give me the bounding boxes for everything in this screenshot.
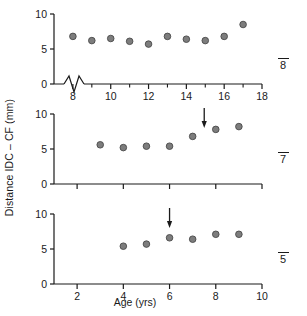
data-point (212, 126, 219, 133)
data-point (202, 37, 209, 44)
panel-tag-middle: 7 (272, 152, 294, 165)
figure-container: Distance IDC – CF (mm) 05108101214161805… (0, 0, 307, 316)
y-tick-label: 0 (41, 178, 47, 190)
x-tick-label: 14 (181, 90, 193, 102)
x-tick-label: 10 (105, 90, 117, 102)
panel-tag-label-middle: 7 (272, 153, 294, 165)
data-point (164, 33, 171, 40)
data-point (166, 143, 173, 150)
data-point (236, 231, 243, 238)
arrow-head (167, 221, 172, 228)
y-tick-label: 5 (41, 243, 47, 255)
x-tick-label: 16 (218, 90, 230, 102)
panel-tag-label-top: 8 (272, 59, 294, 71)
y-tick-label: 10 (35, 8, 47, 20)
data-point (212, 231, 219, 238)
x-axis-label: Age (yrs) (0, 296, 270, 308)
y-tick-label: 5 (41, 43, 47, 55)
data-point (236, 123, 243, 130)
annotation-arrow (167, 208, 172, 228)
data-point (143, 143, 150, 150)
data-point (240, 21, 247, 28)
x-tick-label: 12 (143, 90, 155, 102)
y-tick-label: 5 (41, 143, 47, 155)
y-tick-label: 0 (41, 78, 47, 90)
arrow-head (202, 121, 207, 128)
data-point (120, 243, 127, 250)
data-point (89, 37, 96, 44)
panel-tag-top: 8 (272, 58, 294, 71)
y-tick-label: 10 (35, 208, 47, 220)
panel-top: 051081012141618 (35, 8, 268, 102)
panel-tag-bottom: 5 (272, 252, 294, 265)
data-point (120, 144, 127, 151)
data-point (221, 33, 228, 40)
x-tick-label: 18 (256, 90, 268, 102)
x-axis-break-mask (64, 83, 84, 86)
y-tick-label: 10 (35, 108, 47, 120)
panel-bottom: 0510246810 (35, 208, 268, 302)
y-tick-label: 0 (41, 278, 47, 290)
data-point (183, 36, 190, 43)
data-point (97, 142, 104, 149)
scatter-plot-svg: 05108101214161805100510246810 (0, 0, 307, 316)
annotation-arrow (202, 108, 207, 128)
data-point (166, 235, 173, 242)
data-point (189, 133, 196, 140)
data-point (126, 38, 133, 45)
data-point (107, 35, 114, 42)
data-point (145, 41, 152, 48)
x-tick-label: 8 (70, 90, 76, 102)
data-point (189, 236, 196, 243)
data-point (70, 33, 77, 40)
panel-middle: 0510 (35, 108, 262, 190)
panel-tag-label-bottom: 5 (272, 253, 294, 265)
data-point (143, 241, 150, 248)
